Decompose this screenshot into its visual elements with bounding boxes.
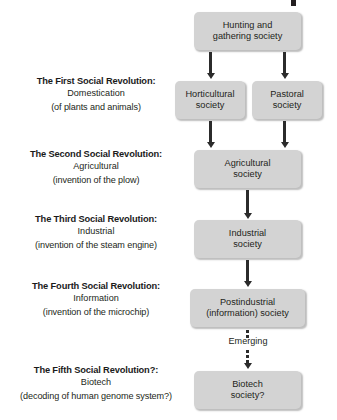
node-line-2: society (185, 100, 234, 111)
node-horticultural-society[interactable]: Horticultural society (175, 81, 245, 119)
revolution-title: The Second Social Revolution: (4, 149, 188, 161)
cropped-title-mark (291, 0, 296, 6)
revolution-title: The First Social Revolution: (4, 76, 188, 88)
node-line-2: society? (231, 390, 265, 401)
node-postindustrial-society[interactable]: Postindustrial (information) society (190, 289, 305, 327)
revolution-paren: (invention of the microchip) (4, 307, 188, 319)
revolution-subtitle: Agricultural (4, 161, 188, 173)
node-hunting-gathering-society[interactable]: Hunting and gathering society (194, 12, 301, 50)
node-line-1: Hunting and (213, 20, 282, 31)
revolution-subtitle: Biotech (4, 377, 188, 389)
node-line-2: gathering society (213, 31, 282, 42)
node-line-2: society (229, 239, 266, 250)
revolution-title: The Fourth Social Revolution: (4, 281, 188, 293)
node-line-1: Agricultural (225, 158, 271, 169)
revolution-title: The Third Social Revolution: (4, 214, 188, 226)
node-line-1: Industrial (229, 228, 266, 239)
node-line-2: society (270, 100, 304, 111)
node-line-1: Pastoral (270, 89, 304, 100)
node-agricultural-society[interactable]: Agricultural society (194, 150, 301, 188)
revolution-paren: (of plants and animals) (4, 102, 188, 114)
revolution-subtitle: Domestication (4, 88, 188, 100)
node-line-1: Postindustrial (206, 297, 289, 308)
node-biotech-society[interactable]: Biotech society? (194, 371, 301, 409)
revolution-label-fourth: The Fourth Social Revolution: Informatio… (4, 281, 188, 319)
node-line-1: Biotech (231, 379, 265, 390)
node-industrial-society[interactable]: Industrial society (194, 220, 301, 258)
revolution-paren: (decoding of human genome system?) (4, 391, 188, 403)
node-line-1: Horticultural (185, 89, 234, 100)
revolution-subtitle: Information (4, 293, 188, 305)
node-line-2: society (225, 169, 271, 180)
revolution-paren: (invention of the steam engine) (4, 240, 188, 252)
node-pastoral-society[interactable]: Pastoral society (252, 81, 322, 119)
revolution-label-third: The Third Social Revolution: Industrial … (4, 214, 188, 252)
node-line-2: (information) society (206, 308, 289, 319)
emerging-edge-label: Emerging (196, 336, 300, 346)
revolution-paren: (invention of the plow) (4, 175, 188, 187)
revolution-label-first: The First Social Revolution: Domesticati… (4, 76, 188, 114)
revolution-subtitle: Industrial (4, 226, 188, 238)
revolution-label-fifth: The Fifth Social Revolution?: Biotech (d… (4, 365, 188, 403)
revolution-title: The Fifth Social Revolution?: (4, 365, 188, 377)
revolution-label-second: The Second Social Revolution: Agricultur… (4, 149, 188, 187)
diagram-canvas: The First Social Revolution: Domesticati… (0, 0, 337, 420)
